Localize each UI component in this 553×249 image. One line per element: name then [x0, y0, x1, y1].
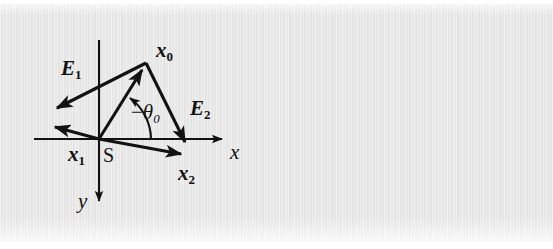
- label-E2: E2: [190, 98, 211, 119]
- label-x0: x0: [156, 40, 173, 61]
- label-angle-subscript: 0: [153, 111, 160, 126]
- label-x2-symbol: x: [178, 161, 189, 185]
- label-E2-symbol: E: [190, 96, 204, 120]
- label-angle-theta0: −θ0: [131, 102, 160, 123]
- label-x1-symbol: x: [68, 142, 79, 166]
- label-E1: E1: [61, 58, 82, 79]
- label-E2-subscript: 2: [204, 107, 211, 122]
- label-E1-subscript: 1: [75, 67, 82, 82]
- label-x0-symbol: x: [156, 38, 167, 62]
- label-y-axis: y: [78, 191, 87, 212]
- label-x1-subscript: 1: [79, 153, 86, 168]
- label-angle-theta-symbol: θ: [143, 100, 153, 124]
- label-E1-symbol: E: [61, 56, 75, 80]
- label-origin-S: S: [103, 145, 114, 165]
- label-x2: x2: [178, 163, 195, 184]
- label-x1: x1: [68, 144, 85, 165]
- label-angle-minus-sign: −: [131, 100, 143, 124]
- figure-root: x0 x1 x2 E1 E2 −θ0 x y S: [0, 0, 553, 249]
- label-x-axis: x: [230, 142, 239, 163]
- label-x2-subscript: 2: [189, 172, 196, 187]
- vector-x1-arrow: [55, 127, 99, 139]
- label-x0-subscript: 0: [167, 49, 174, 64]
